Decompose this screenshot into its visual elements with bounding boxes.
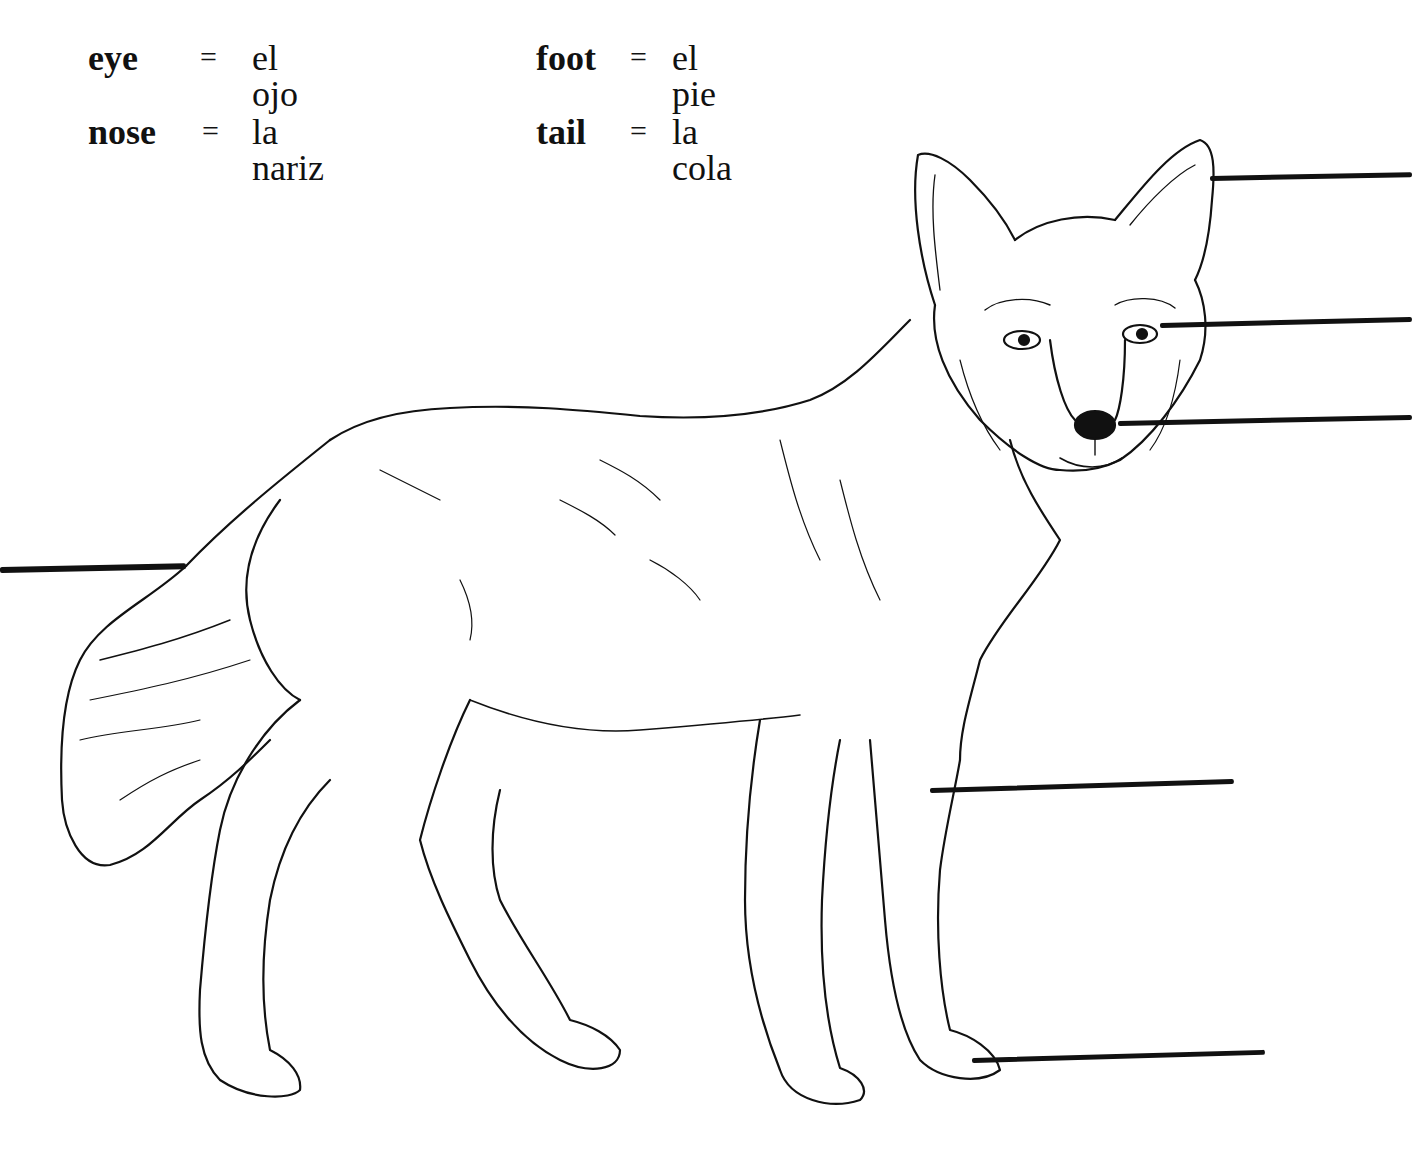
coyote-illustration	[0, 0, 1428, 1164]
fur-strokes	[380, 440, 880, 640]
body-drawing	[246, 320, 1060, 760]
tail-drawing	[61, 440, 330, 865]
front-leg-rear-drawing	[745, 720, 864, 1104]
hind-leg-rear-drawing	[199, 700, 330, 1097]
hind-leg-front-drawing	[420, 700, 620, 1069]
